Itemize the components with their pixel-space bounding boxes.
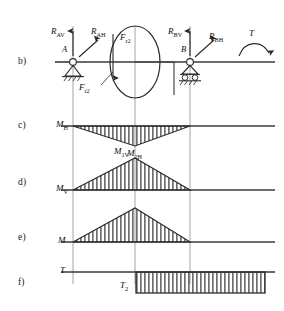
row-label-e: e) bbox=[18, 232, 26, 242]
row-e-area bbox=[73, 208, 190, 242]
reaction-rav-label: RAV bbox=[51, 26, 65, 38]
gear-force-upper-label: Fr2 bbox=[120, 32, 131, 44]
row-c-diagram-mh bbox=[61, 126, 275, 146]
row-label-c: c) bbox=[18, 120, 26, 130]
torque-label: T bbox=[249, 28, 254, 38]
row-d-diagram-mv bbox=[61, 158, 275, 190]
gear-force-lower-label: Fr2 bbox=[79, 82, 90, 94]
reaction-rah-label: RAH bbox=[91, 26, 105, 38]
figure-canvas: b) c) d) e) f) A B RAV RAH RBV RBH T Fr2… bbox=[0, 0, 284, 311]
reaction-rah-arrow bbox=[79, 40, 98, 57]
torque-arrow bbox=[239, 44, 269, 56]
row-label-b: b) bbox=[18, 56, 26, 66]
row-f-area bbox=[136, 272, 265, 293]
row-label-f: f) bbox=[18, 277, 25, 287]
row-d-area bbox=[73, 158, 190, 190]
diagram-f-axis-label: T bbox=[60, 265, 65, 277]
support-a-label: A bbox=[62, 44, 67, 54]
reaction-rbh-label: RBH bbox=[209, 31, 223, 43]
reaction-rbv-label: RBV bbox=[168, 26, 182, 38]
row-label-d: d) bbox=[18, 177, 26, 187]
diagram-c-peak-label: M2H bbox=[127, 148, 142, 160]
row-c-area bbox=[73, 126, 190, 146]
diagram-e-axis-label: M bbox=[58, 235, 66, 247]
diagram-c-axis-label: MH bbox=[56, 119, 68, 131]
diagram-d-axis-label: MV bbox=[56, 183, 68, 195]
diagram-f-peak-label: T2 bbox=[120, 280, 128, 292]
diagram-d-peak-label: M1V bbox=[114, 146, 129, 158]
support-b-label: B bbox=[181, 44, 186, 54]
row-f-diagram-t bbox=[61, 272, 275, 293]
row-e-diagram-m bbox=[61, 208, 275, 242]
